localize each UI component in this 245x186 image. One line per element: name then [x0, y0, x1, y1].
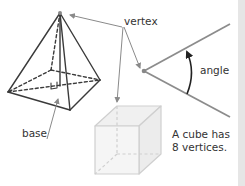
- pyramid-hidden-edges: [8, 13, 100, 92]
- cube-note-line-1: A cube has: [172, 128, 230, 141]
- cube-note: A cube has 8 vertices.: [172, 128, 230, 154]
- vertex-label: vertex: [124, 15, 158, 28]
- base-label: base: [22, 127, 47, 140]
- angle-vertex-dot: [142, 69, 147, 74]
- pyramid-figure: [8, 11, 100, 110]
- cube-note-line-2: 8 vertices.: [172, 141, 230, 154]
- angle-arc-arrow: [187, 52, 192, 94]
- diagram-canvas: [0, 0, 245, 186]
- angle-label: angle: [200, 64, 229, 77]
- pyramid-apex-dot: [58, 11, 62, 15]
- cube-figure: [95, 106, 161, 174]
